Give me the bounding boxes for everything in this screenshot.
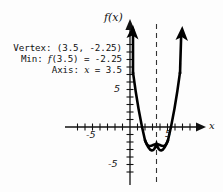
graph-figure: Vertex: (3.5, -2.25) Min: f(3.5) = -2.25… bbox=[0, 0, 223, 192]
y-tick-label-pos5: 5 bbox=[114, 83, 120, 94]
x-axis-arrowhead bbox=[196, 123, 206, 132]
parabola-right-branch-extension bbox=[180, 34, 181, 74]
y-axis-label-fx: f(x) bbox=[104, 11, 123, 24]
x-tick-label-pos5: 5 bbox=[165, 128, 171, 139]
x-tick-label-neg5: -5 bbox=[86, 129, 95, 140]
x-axis-label-x: x bbox=[209, 120, 215, 131]
y-tick-label-neg5: -5 bbox=[108, 158, 117, 169]
parabola-curve bbox=[133, 72, 180, 150]
